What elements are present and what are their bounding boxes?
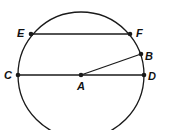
label-a: A xyxy=(76,80,85,92)
point-a xyxy=(79,73,84,78)
label-b: B xyxy=(145,50,153,62)
point-e xyxy=(29,32,34,37)
point-b xyxy=(139,52,144,57)
point-c xyxy=(16,73,21,78)
point-f xyxy=(128,32,133,37)
radius-ab xyxy=(81,54,141,75)
label-c: C xyxy=(4,69,13,81)
label-d: D xyxy=(148,70,156,82)
circle-diagram: A B C D E F xyxy=(0,0,169,130)
point-d xyxy=(142,73,147,78)
label-f: F xyxy=(136,27,143,39)
circle xyxy=(18,12,144,130)
label-e: E xyxy=(17,27,25,39)
